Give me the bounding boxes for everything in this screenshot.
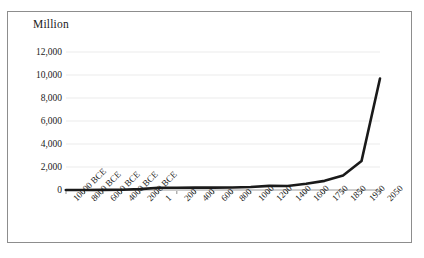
x-tick-label: 1 [163, 193, 173, 203]
x-tick-label: 1750 [330, 183, 350, 203]
x-tick-label: 1850 [348, 183, 368, 203]
x-tick-label-text: 1750 [330, 183, 350, 203]
x-tick-label-text: 1600 [311, 183, 331, 203]
x-tick-label-text: 1000 [256, 183, 276, 203]
x-tick-label: 200 [182, 186, 199, 203]
x-tick-label: 1200 [274, 183, 294, 203]
x-tick-label: 1000 [256, 183, 276, 203]
x-tick-label: 1400 [293, 183, 313, 203]
x-tick-label-text: 1 [163, 193, 173, 203]
chart-figure: Million 02,0004,0006,0008,00010,00012,00… [0, 0, 424, 258]
x-tick-label: 600 [219, 186, 236, 203]
x-tick-label-text: 1850 [348, 183, 368, 203]
x-tick-label: 400 [200, 186, 217, 203]
x-tick-label-text: 400 [200, 186, 217, 203]
x-tick-label-text: 2050 [385, 183, 405, 203]
x-tick-label-text: 200 [182, 186, 199, 203]
x-tick-label: 800 [237, 186, 254, 203]
x-tick-label: 2050 [385, 183, 405, 203]
x-tick-label: 1600 [311, 183, 331, 203]
x-tick-label-text: 1950 [367, 183, 387, 203]
x-tick-label-text: 800 [237, 186, 254, 203]
x-tick-label: 1950 [367, 183, 387, 203]
x-tick-label-text: 1200 [274, 183, 294, 203]
x-tick-label-text: 600 [219, 186, 236, 203]
x-axis-tick-labels: 10000 BCE8000 BCE6000 BCE4000 BCE2000 BC… [0, 0, 424, 258]
x-tick-label-text: 1400 [293, 183, 313, 203]
